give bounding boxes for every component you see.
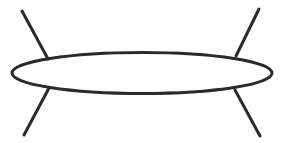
line-drawing-canvas (0, 0, 282, 143)
canvas-background (0, 0, 282, 143)
figure-container (0, 0, 282, 143)
